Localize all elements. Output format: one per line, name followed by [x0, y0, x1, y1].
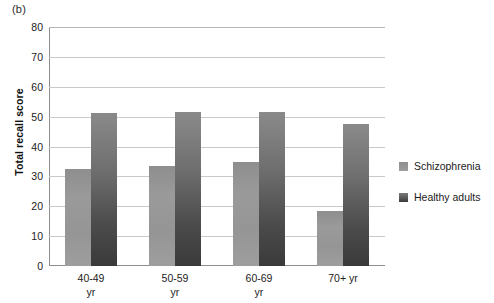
bar-group-1: [149, 27, 201, 266]
legend-swatch-healthy-icon: [399, 193, 408, 202]
y-tick-label-80: 80: [31, 21, 43, 33]
legend-label-healthy: Healthy adults: [414, 191, 481, 203]
bar-group-3: [317, 27, 369, 266]
y-tick-label-40: 40: [31, 141, 43, 153]
bar-healthy-2[interactable]: [259, 112, 285, 266]
bar-schizophrenia-2[interactable]: [233, 162, 259, 266]
y-tick-label-0: 0: [37, 260, 43, 272]
bar-healthy-3[interactable]: [343, 124, 369, 266]
y-tick-label-20: 20: [31, 200, 43, 212]
y-axis-title: Total recall score: [13, 72, 25, 192]
y-tick-label-70: 70: [31, 51, 43, 63]
bar-healthy-0[interactable]: [91, 113, 117, 266]
chart-legend: SchizophreniaHealthy adults: [399, 160, 481, 222]
x-tick-label-1: 50-59 yr: [162, 271, 189, 299]
y-tick-label-10: 10: [31, 230, 43, 242]
figure-panel-b: (b) Total recall score 01020304050607080…: [0, 0, 494, 303]
y-tick-label-30: 30: [31, 170, 43, 182]
bar-schizophrenia-0[interactable]: [65, 169, 91, 266]
y-tick-label-60: 60: [31, 81, 43, 93]
plot-area: 01020304050607080 40-49 yr50-59 yr60-69 …: [49, 27, 385, 266]
bar-healthy-1[interactable]: [175, 112, 201, 266]
y-tick-label-50: 50: [31, 111, 43, 123]
legend-entry-schizophrenia[interactable]: Schizophrenia: [399, 160, 481, 172]
bar-group-2: [233, 27, 285, 266]
bar-schizophrenia-1[interactable]: [149, 166, 175, 266]
bar-group-0: [65, 27, 117, 266]
x-tick-label-3: 70+ yr: [328, 271, 357, 285]
bar-schizophrenia-3[interactable]: [317, 211, 343, 266]
panel-label: (b): [12, 3, 26, 15]
legend-entry-healthy[interactable]: Healthy adults: [399, 191, 481, 203]
x-tick-label-0: 40-49 yr: [78, 271, 105, 299]
x-tick-label-2: 60-69 yr: [246, 271, 273, 299]
legend-swatch-schizophrenia-icon: [399, 162, 408, 171]
legend-label-schizophrenia: Schizophrenia: [414, 160, 481, 172]
